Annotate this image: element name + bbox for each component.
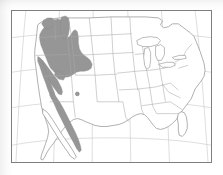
lake-michigan: [144, 48, 151, 70]
point-records-layer: [75, 92, 79, 96]
parallel-line: [12, 138, 211, 145]
florida-outline: [177, 112, 187, 137]
meridian-line: [16, 11, 26, 162]
map-canvas: [12, 11, 211, 162]
map-frame: [11, 10, 212, 163]
range-polygon-idaho-panhandle: [61, 16, 70, 39]
figure-container: United States and northwestern Mexico sh…: [0, 0, 223, 175]
record-point-marker: [75, 92, 79, 96]
